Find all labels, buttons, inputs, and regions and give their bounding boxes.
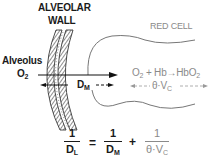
reaction-plus-hb: + Hb — [146, 67, 167, 78]
fraction-dm: 1 DM — [104, 128, 122, 156]
alveolar-wall-label-line2: WALL — [48, 16, 76, 26]
plus-sign: + — [129, 135, 136, 149]
theta-vc-denominator: θ·VC — [145, 144, 169, 156]
reaction-o2-subscript: 2 — [140, 72, 144, 79]
rate-theta-vc: θ·V — [152, 80, 167, 91]
reaction-arrow: → — [167, 67, 177, 78]
alveolus-label: Alveolus — [2, 56, 42, 66]
alveolar-wall — [47, 30, 77, 130]
equals-sign: = — [89, 136, 96, 150]
rate-label: θ·VC — [152, 81, 172, 92]
lhs-fraction-bar — [64, 141, 80, 142]
red-cell-label: RED CELL — [150, 22, 192, 31]
reaction-o2: O — [132, 67, 140, 78]
alveolar-wall-label-line1: ALVEOLAR — [38, 3, 91, 13]
o2-subscript: 2 — [25, 73, 29, 80]
dm-symbol: D — [77, 79, 84, 90]
reaction-product: HbO — [176, 67, 196, 78]
dm-denominator: DM — [104, 144, 122, 156]
rate-subscript: C — [167, 85, 172, 92]
fraction-theta-vc: 1 θ·VC — [145, 128, 169, 156]
red-cell-outline-bottom — [92, 90, 195, 108]
o2-symbol: O — [17, 68, 25, 79]
dm-label: DM — [77, 80, 90, 91]
dm-numerator: 1 — [104, 128, 122, 139]
theta-vc-fraction-bar — [145, 141, 169, 142]
fraction-lhs: 1 DL — [64, 128, 80, 156]
reaction-equation: O2 + Hb→HbO2 — [132, 68, 200, 79]
theta-vc-numerator: 1 — [145, 128, 169, 139]
dm-fraction-bar — [104, 141, 122, 142]
reaction-product-subscript: 2 — [196, 72, 200, 79]
lhs-numerator: 1 — [64, 128, 80, 139]
lhs-denominator: DL — [64, 144, 80, 156]
dm-subscript: M — [84, 84, 90, 91]
o2-label: O2 — [17, 69, 28, 80]
